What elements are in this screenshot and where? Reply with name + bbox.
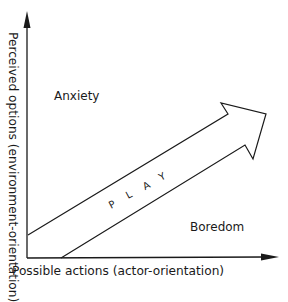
y-axis-label: Perceived options (environment-orientati…: [6, 32, 20, 302]
x-axis-label: Possible actions (actor-orientation): [12, 264, 224, 278]
boredom-region-label: Boredom: [190, 220, 244, 234]
anxiety-region-label: Anxiety: [54, 89, 99, 103]
y-axis-arrowhead-icon: [24, 11, 31, 28]
x-axis-arrowhead-icon: [261, 254, 279, 261]
